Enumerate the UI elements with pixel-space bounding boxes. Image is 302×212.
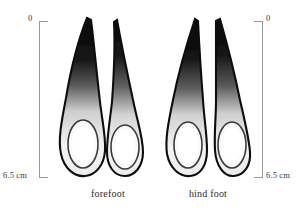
right-scale-top-label: 0 — [266, 13, 270, 23]
left-scale-bottom-label: 6.5 cm — [3, 170, 27, 180]
left-scale-tick-bottom — [39, 177, 48, 178]
forefoot-track — [55, 16, 153, 181]
right-scale-bottom-label: 6.5 cm — [266, 170, 290, 180]
forefoot-caption: forefoot — [63, 188, 153, 199]
track-figure: 0 6.5 cm 0 6.5 cm — [0, 0, 302, 212]
left-scale-bar — [39, 21, 49, 178]
left-scale-top-label: 0 — [28, 13, 32, 23]
right-scale-spine — [262, 21, 263, 178]
left-scale-spine — [39, 21, 40, 178]
left-scale-tick-top — [39, 21, 48, 22]
hind-foot-track — [158, 16, 256, 181]
hind-foot-caption: hind foot — [163, 188, 253, 199]
